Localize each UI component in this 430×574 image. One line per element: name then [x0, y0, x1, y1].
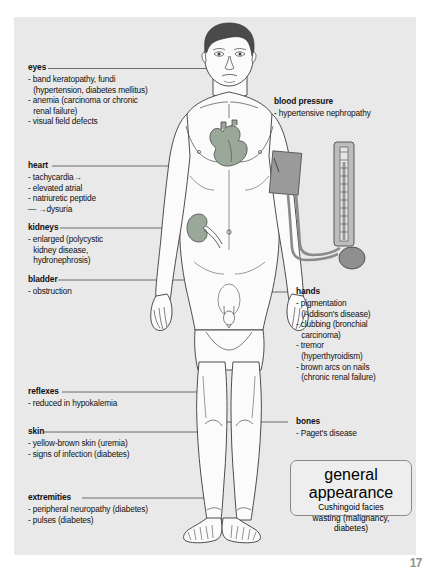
label-bladder-heading: bladder — [28, 274, 158, 285]
list-item: - enlarged (polycystic — [28, 234, 158, 245]
label-skin-heading: skin — [28, 426, 188, 437]
list-item: - band keratopathy, fundi — [28, 74, 178, 85]
list-item: - brown arcs on nails — [296, 362, 420, 373]
label-bladder: bladder - obstruction — [28, 274, 158, 297]
general-appearance-box: general appearance Cushingoid facies was… — [290, 460, 412, 516]
label-blood-pressure-heading: blood pressure — [274, 96, 420, 107]
label-extremities-list: - peripheral neuropathy (diabetes) - pul… — [28, 504, 198, 525]
list-item: - obstruction — [28, 286, 158, 297]
list-item: - natriuretic peptide — [28, 193, 158, 204]
label-heart-heading: heart — [28, 160, 158, 171]
label-eyes-list: - band keratopathy, fundi (hypertension,… — [28, 74, 178, 127]
list-item: (Addison's disease) — [296, 309, 420, 320]
label-hands-list: - pigmentation (Addison's disease) - clu… — [296, 298, 420, 383]
list-item: - yellow-brown skin (uremia) — [28, 438, 188, 449]
list-item: - elevated atrial — [28, 183, 158, 194]
list-item: hydronephrosis) — [28, 255, 158, 266]
list-item: - anemia (carcinoma or chronic — [28, 95, 178, 106]
label-hands-heading: hands — [296, 286, 420, 297]
label-skin-list: - yellow-brown skin (uremia) - signs of … — [28, 438, 188, 459]
label-bones: bones - Paget's disease — [296, 416, 420, 439]
list-item: renal failure) — [28, 106, 178, 117]
list-item: - reduced in hypokalemia — [28, 398, 178, 409]
page-number: 17 — [410, 556, 422, 570]
label-kidneys-heading: kidneys — [28, 222, 158, 233]
label-bones-heading: bones — [296, 416, 420, 427]
general-appearance-heading: general appearance — [309, 466, 394, 501]
label-extremities-heading: extremities — [28, 492, 198, 503]
label-skin: skin - yellow-brown skin (uremia) - sign… — [28, 426, 188, 459]
label-heart-list: - tachycardia→ - elevated atrial - natri… — [28, 172, 158, 214]
label-bones-list: - Paget's disease — [296, 428, 420, 439]
mercury-column — [343, 162, 346, 240]
label-heart: heart - tachycardia→ - elevated atrial -… — [28, 160, 158, 214]
bp-bulb — [339, 247, 365, 269]
label-hands: hands - pigmentation (Addison's disease)… — [296, 286, 420, 383]
list-item: — →dysuria — [28, 204, 158, 215]
general-appearance-line: Cushingoid facies — [297, 502, 405, 513]
list-item: carcinoma) — [296, 330, 420, 341]
list-item: - tachycardia→ — [28, 172, 158, 183]
general-appearance-line: diabetes) — [297, 523, 405, 534]
bp-tube-right — [296, 195, 340, 255]
list-item: - hypertensive nephropathy — [274, 108, 420, 119]
label-kidneys: kidneys - enlarged (polycystic kidney di… — [28, 222, 158, 266]
list-item: - pigmentation — [296, 298, 420, 309]
label-eyes: eyes - band keratopathy, fundi (hyperten… — [28, 62, 178, 127]
list-item: (hyperthyroidism) — [296, 351, 420, 362]
list-item: - clubbing (bronchial — [296, 319, 420, 330]
list-item: - visual field defects — [28, 116, 178, 127]
label-reflexes-heading: reflexes — [28, 386, 178, 397]
list-item: (chronic renal failure) — [296, 372, 420, 383]
label-reflexes-list: - reduced in hypokalemia — [28, 398, 178, 409]
label-reflexes: reflexes - reduced in hypokalemia — [28, 386, 178, 409]
list-item: - signs of infection (diabetes) — [28, 449, 188, 460]
label-kidneys-list: - enlarged (polycystic kidney disease, h… — [28, 234, 158, 266]
general-appearance-line: wasting (malignancy, — [297, 513, 405, 524]
list-item: - pulses (diabetes) — [28, 515, 198, 526]
list-item: - peripheral neuropathy (diabetes) — [28, 504, 198, 515]
label-eyes-heading: eyes — [28, 62, 178, 73]
label-bladder-list: - obstruction — [28, 286, 158, 297]
list-item: (hypertension, diabetes mellitus) — [28, 85, 178, 96]
list-item: kidney disease, — [28, 245, 158, 256]
label-blood-pressure-list: - hypertensive nephropathy — [274, 108, 420, 119]
list-item: - Paget's disease — [296, 428, 420, 439]
list-item: - tremor — [296, 340, 420, 351]
label-blood-pressure: blood pressure - hypertensive nephropath… — [274, 96, 420, 119]
bp-cuff — [269, 151, 302, 195]
label-extremities: extremities - peripheral neuropathy (dia… — [28, 492, 198, 525]
